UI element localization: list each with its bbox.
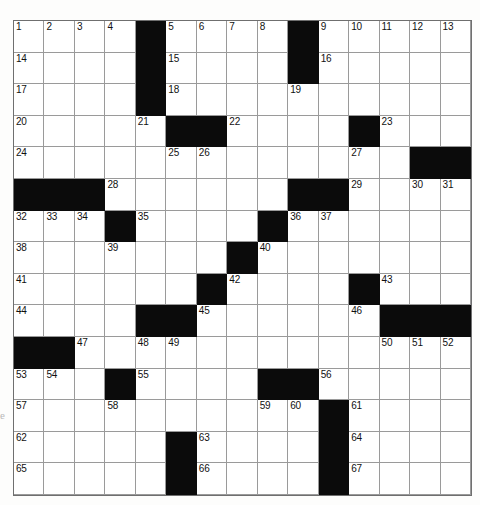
grid-cell[interactable] [319,147,349,179]
grid-cell[interactable] [105,147,135,179]
grid-cell[interactable]: 39 [105,242,135,274]
grid-cell[interactable]: 17 [14,84,44,116]
grid-cell[interactable] [75,400,105,432]
grid-cell[interactable]: 36 [288,211,318,243]
grid-cell[interactable]: 9 [319,21,349,53]
grid-cell[interactable]: 26 [197,147,227,179]
grid-cell[interactable]: 66 [197,463,227,495]
grid-cell[interactable]: 22 [227,116,257,148]
grid-cell[interactable]: 60 [288,400,318,432]
grid-cell[interactable] [227,305,257,337]
grid-cell[interactable] [258,116,288,148]
grid-cell[interactable] [441,432,471,464]
grid-cell[interactable]: 21 [136,116,166,148]
grid-cell[interactable] [44,147,74,179]
grid-cell[interactable] [258,274,288,306]
crossword-grid[interactable]: 1234567891011121314151617181920212223242… [13,20,472,496]
grid-cell[interactable] [227,337,257,369]
grid-cell[interactable] [410,369,440,401]
grid-cell[interactable] [227,179,257,211]
grid-cell[interactable]: 2 [44,21,74,53]
grid-cell[interactable] [227,369,257,401]
grid-cell[interactable] [258,337,288,369]
grid-cell[interactable] [44,274,74,306]
grid-cell[interactable] [319,305,349,337]
grid-cell[interactable] [258,305,288,337]
grid-cell[interactable] [197,211,227,243]
grid-cell[interactable] [105,463,135,495]
grid-cell[interactable] [44,116,74,148]
grid-cell[interactable] [410,463,440,495]
grid-cell[interactable] [410,211,440,243]
grid-cell[interactable] [380,400,410,432]
grid-cell[interactable] [75,463,105,495]
grid-cell[interactable] [227,84,257,116]
grid-cell[interactable]: 33 [44,211,74,243]
grid-cell[interactable] [349,211,379,243]
grid-cell[interactable]: 52 [441,337,471,369]
grid-cell[interactable] [258,179,288,211]
grid-cell[interactable] [288,147,318,179]
grid-cell[interactable] [227,400,257,432]
grid-cell[interactable] [349,53,379,85]
grid-cell[interactable] [258,84,288,116]
grid-cell[interactable] [136,274,166,306]
grid-cell[interactable]: 13 [441,21,471,53]
grid-cell[interactable] [44,463,74,495]
grid-cell[interactable]: 35 [136,211,166,243]
grid-cell[interactable]: 53 [14,369,44,401]
grid-cell[interactable] [197,53,227,85]
grid-cell[interactable] [410,274,440,306]
grid-cell[interactable]: 14 [14,53,44,85]
grid-cell[interactable] [410,116,440,148]
grid-cell[interactable] [441,116,471,148]
grid-cell[interactable] [380,242,410,274]
grid-cell[interactable] [136,463,166,495]
grid-cell[interactable]: 10 [349,21,379,53]
grid-cell[interactable] [197,179,227,211]
grid-cell[interactable]: 48 [136,337,166,369]
grid-cell[interactable] [319,242,349,274]
grid-cell[interactable]: 4 [105,21,135,53]
grid-cell[interactable]: 57 [14,400,44,432]
grid-cell[interactable] [75,116,105,148]
grid-cell[interactable] [410,53,440,85]
grid-cell[interactable]: 16 [319,53,349,85]
grid-cell[interactable]: 50 [380,337,410,369]
grid-cell[interactable] [380,369,410,401]
grid-cell[interactable] [410,242,440,274]
grid-cell[interactable]: 6 [197,21,227,53]
grid-cell[interactable]: 46 [349,305,379,337]
grid-cell[interactable] [227,53,257,85]
grid-cell[interactable] [136,400,166,432]
grid-cell[interactable] [410,400,440,432]
grid-cell[interactable] [441,242,471,274]
grid-cell[interactable] [136,242,166,274]
grid-cell[interactable]: 28 [105,179,135,211]
grid-cell[interactable] [75,274,105,306]
grid-cell[interactable] [258,53,288,85]
grid-cell[interactable] [349,337,379,369]
grid-cell[interactable] [349,242,379,274]
grid-cell[interactable] [197,400,227,432]
grid-cell[interactable]: 43 [380,274,410,306]
grid-cell[interactable]: 51 [410,337,440,369]
grid-cell[interactable] [288,274,318,306]
grid-cell[interactable] [410,432,440,464]
grid-cell[interactable] [288,337,318,369]
grid-cell[interactable]: 42 [227,274,257,306]
grid-cell[interactable]: 23 [380,116,410,148]
grid-cell[interactable] [319,84,349,116]
grid-cell[interactable] [105,116,135,148]
grid-cell[interactable] [166,274,196,306]
grid-cell[interactable] [166,179,196,211]
grid-cell[interactable]: 65 [14,463,44,495]
grid-cell[interactable] [105,274,135,306]
grid-cell[interactable]: 19 [288,84,318,116]
grid-cell[interactable] [166,242,196,274]
grid-cell[interactable] [44,432,74,464]
grid-cell[interactable] [75,369,105,401]
grid-cell[interactable] [227,147,257,179]
grid-cell[interactable] [441,369,471,401]
grid-cell[interactable] [105,84,135,116]
